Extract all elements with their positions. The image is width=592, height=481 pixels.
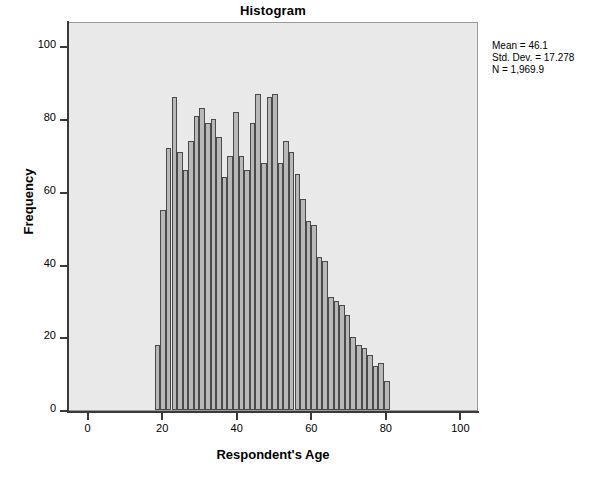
y-tick-label: 20 bbox=[44, 329, 56, 341]
x-tick-label: 40 bbox=[216, 422, 258, 434]
y-tick: 60 bbox=[60, 192, 68, 194]
x-tick-label: 80 bbox=[365, 422, 407, 434]
x-tick-label: 20 bbox=[141, 422, 183, 434]
y-tick-label: 0 bbox=[50, 402, 56, 414]
y-tick: 40 bbox=[60, 265, 68, 267]
y-tick: 20 bbox=[60, 337, 68, 339]
y-axis-line bbox=[67, 21, 69, 412]
y-tick: 0 bbox=[60, 410, 68, 412]
x-axis-title: Respondent's Age bbox=[68, 447, 478, 462]
y-tick-label: 100 bbox=[38, 38, 56, 50]
y-tick: 100 bbox=[60, 46, 68, 48]
y-tick-label: 80 bbox=[44, 111, 56, 123]
x-tick: 0 bbox=[87, 412, 89, 420]
x-tick-label: 0 bbox=[67, 422, 109, 434]
plot-area bbox=[68, 22, 478, 411]
y-tick: 80 bbox=[60, 119, 68, 121]
x-axis-line bbox=[67, 411, 479, 413]
x-tick: 40 bbox=[236, 412, 238, 420]
x-tick-label: 100 bbox=[439, 422, 481, 434]
page-title: Histogram bbox=[68, 3, 478, 18]
y-tick-label: 60 bbox=[44, 184, 56, 196]
bars-layer bbox=[69, 23, 477, 410]
x-tick: 80 bbox=[385, 412, 387, 420]
x-tick: 20 bbox=[161, 412, 163, 420]
x-tick: 100 bbox=[459, 412, 461, 420]
histogram-bar bbox=[384, 381, 390, 410]
y-tick-label: 40 bbox=[44, 257, 56, 269]
statistics-annotation: Mean = 46.1 Std. Dev. = 17.278 N = 1,969… bbox=[492, 40, 574, 76]
x-tick-label: 60 bbox=[290, 422, 332, 434]
y-axis-title: Frequency bbox=[21, 127, 36, 277]
x-tick: 60 bbox=[310, 412, 312, 420]
histogram-chart: Histogram 020406080100 020406080100 Resp… bbox=[0, 0, 592, 481]
stat-std-dev: Std. Dev. = 17.278 bbox=[492, 52, 574, 64]
stat-n: N = 1,969.9 bbox=[492, 64, 574, 76]
stat-mean: Mean = 46.1 bbox=[492, 40, 574, 52]
